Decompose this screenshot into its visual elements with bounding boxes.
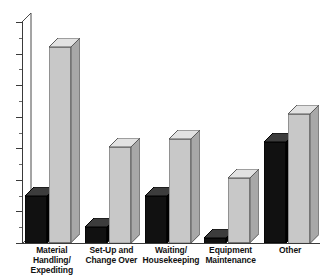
bar-chart: 02468101214 MaterialHandling/ExpeditingS… — [0, 0, 330, 280]
y-axis-line — [22, 22, 23, 243]
bar-light-1 — [109, 138, 140, 243]
y-axis-tick-minor — [19, 196, 22, 197]
y-axis-tick-major — [16, 211, 22, 212]
x-axis-label-line: Housekeeping — [141, 255, 201, 265]
bar-light-2 — [169, 130, 200, 243]
y-axis-tick-minor — [19, 101, 22, 102]
y-axis-tick-major — [16, 85, 22, 86]
y-axis-tick-minor — [19, 38, 22, 39]
y-axis-tick-major — [16, 180, 22, 181]
bar-light-3 — [228, 169, 259, 243]
bar-light-4 — [288, 105, 319, 243]
y-axis-tick-minor — [19, 133, 22, 134]
x-axis-category-label: Other — [260, 245, 320, 255]
y-axis-tick-minor — [19, 69, 22, 70]
y-axis-tick-major — [16, 54, 22, 55]
x-axis-label-line: Material — [22, 245, 82, 255]
y-axis-tick-major — [16, 117, 22, 118]
x-axis-label-line: Other — [260, 245, 320, 255]
x-axis-labels: MaterialHandling/ExpeditingSet-Up andCha… — [22, 245, 320, 280]
x-axis-label-line: Set-Up and — [82, 245, 142, 255]
bar-light-0 — [49, 38, 80, 243]
x-axis-label-line: Expediting — [22, 265, 82, 275]
x-axis-category-label: EquipmentMaintenance — [201, 245, 261, 265]
y-axis-tick-major — [16, 22, 22, 23]
y-axis-tick-minor — [19, 227, 22, 228]
x-axis-label-line: Maintenance — [201, 255, 261, 265]
x-axis-label-line: Handling/ — [22, 255, 82, 265]
x-axis-category-label: Set-Up andChange Over — [82, 245, 142, 265]
x-axis-category-label: Waiting/Housekeeping — [141, 245, 201, 265]
x-axis-label-line: Equipment — [201, 245, 261, 255]
x-axis-category-label: MaterialHandling/Expediting — [22, 245, 82, 275]
y-axis-tick-major — [16, 243, 22, 244]
plot-area — [22, 13, 320, 243]
x-axis-baseline — [22, 243, 320, 244]
y-axis-tick-major — [16, 148, 22, 149]
x-axis-label-line: Change Over — [82, 255, 142, 265]
y-axis-tick-minor — [19, 164, 22, 165]
x-axis-label-line: Waiting/ — [141, 245, 201, 255]
